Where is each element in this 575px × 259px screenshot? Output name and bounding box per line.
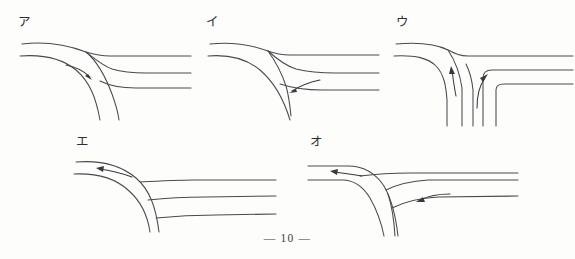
road-main-right	[360, 173, 518, 176]
road-top-corner-outer	[396, 43, 573, 56]
road-left-corner	[394, 56, 447, 126]
figure-e: エ	[66, 132, 278, 242]
road-center-vertical-right	[466, 64, 473, 126]
figure-o-label: オ	[310, 136, 323, 149]
figure-o: オ	[300, 132, 520, 242]
page-number: — 10 —	[0, 232, 575, 244]
road-square-corner-low	[496, 84, 573, 126]
figure-i-label: イ	[206, 16, 219, 29]
direction-arrow-1-head	[289, 89, 297, 93]
scanned-page: ア イ	[0, 0, 575, 259]
direction-arrow-2-head	[480, 74, 488, 82]
figure-i-diagram	[196, 8, 381, 128]
road-main-outer-curve	[208, 56, 290, 120]
road-branch-lower	[392, 196, 518, 208]
road-branch-upper	[386, 180, 518, 190]
direction-arrow-1-shaft	[100, 169, 132, 177]
figure-e-label: エ	[76, 136, 89, 149]
road-top-left	[308, 166, 398, 236]
figure-a-label: ア	[18, 16, 31, 29]
road-inner-curve	[74, 174, 150, 232]
direction-arrow-1-shaft	[334, 172, 362, 176]
direction-arrow-1-head	[449, 66, 455, 74]
figure-u-label: ウ	[396, 16, 409, 29]
figure-o-diagram	[300, 132, 520, 242]
direction-arrow-2-shaft	[477, 78, 485, 108]
road-main-outer-curve	[20, 56, 100, 120]
direction-arrow-1-head	[96, 166, 104, 172]
direction-arrow-1-head	[330, 169, 338, 175]
road-second-left	[308, 180, 384, 236]
road-outer-top	[210, 43, 379, 55]
figure-u-diagram	[386, 8, 575, 128]
road-outer-top	[22, 43, 191, 56]
road-lane-middle	[148, 196, 276, 200]
road-branch-lower	[100, 81, 191, 88]
road-lane-lower	[156, 214, 276, 218]
figure-a: ア	[8, 8, 193, 128]
direction-arrow-1-head	[85, 74, 92, 80]
road-lane-top	[140, 180, 276, 182]
figure-i: イ	[196, 8, 381, 128]
figure-a-diagram	[8, 8, 193, 128]
figure-e-diagram	[66, 132, 278, 242]
road-junction-inner	[388, 194, 395, 236]
figure-u: ウ	[386, 8, 575, 128]
